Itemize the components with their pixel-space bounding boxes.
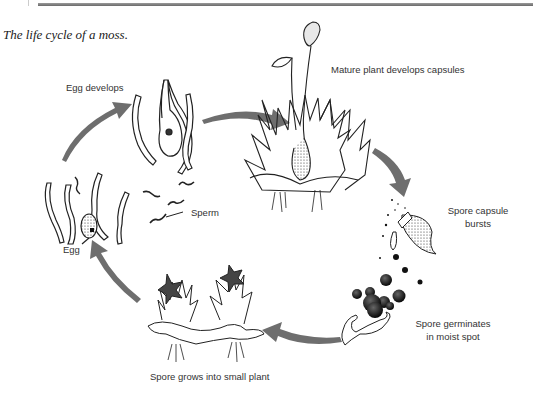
label-spore-germinates-line2: in moist spot xyxy=(408,330,498,343)
spores-illustration xyxy=(352,254,423,318)
label-sperm: Sperm xyxy=(191,206,219,219)
label-egg: Egg xyxy=(63,243,80,256)
label-capsule-bursts-line1: Spore capsule xyxy=(443,204,513,217)
label-mature-plant: Mature plant develops capsules xyxy=(331,63,465,76)
label-egg-develops: Egg develops xyxy=(66,81,124,94)
label-small-plant: Spore grows into small plant xyxy=(150,370,269,383)
arrow-egg-to-egg-develops xyxy=(62,102,132,162)
label-capsule-bursts-line2: bursts xyxy=(443,217,513,230)
arrow-spore-to-small-plant xyxy=(262,322,342,344)
egg-develops-illustration xyxy=(132,80,193,174)
arrow-small-plant-to-egg xyxy=(90,240,141,303)
egg-illustration xyxy=(45,173,129,244)
sperm-illustration xyxy=(143,182,194,223)
label-spore-germinates: Spore germinates in moist spot xyxy=(408,317,498,343)
label-capsule-bursts: Spore capsule bursts xyxy=(443,204,513,230)
germinating-spore xyxy=(342,312,390,345)
cycle-arrows xyxy=(62,102,411,344)
arrow-mature-to-capsule xyxy=(372,148,411,197)
capsule-bursts-illustration xyxy=(379,199,436,259)
small-plant-illustration xyxy=(148,265,264,362)
label-spore-germinates-line1: Spore germinates xyxy=(408,317,498,330)
